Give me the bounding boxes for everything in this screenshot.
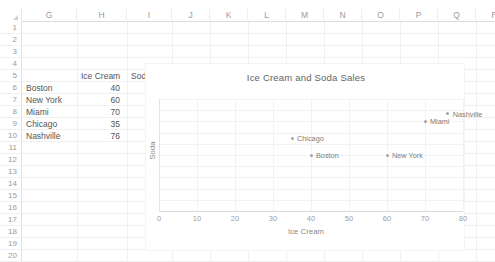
data-point-label: Miami [430, 117, 449, 126]
row-header-7[interactable]: 7 [0, 94, 21, 106]
column-header-J[interactable]: J [172, 9, 210, 22]
row-header-17[interactable]: 17 [0, 214, 21, 226]
cell-G8-city[interactable]: Miami [23, 106, 77, 118]
row-header-3[interactable]: 3 [0, 46, 21, 58]
data-point-label: Chicago [297, 134, 324, 143]
cell-G10-city[interactable]: Nashville [23, 130, 77, 142]
column-header-K[interactable]: K [210, 9, 248, 22]
chart-gridline-horizontal [159, 99, 463, 100]
cell-G9-city[interactable]: Chicago [23, 118, 77, 130]
chart-x-tick-20: 20 [222, 214, 248, 223]
data-point-marker[interactable] [291, 137, 294, 140]
column-header-G[interactable]: G [22, 9, 77, 22]
cell-G7-city[interactable]: New York [23, 94, 77, 106]
column-header-I[interactable]: I [127, 9, 172, 22]
chart-title: Ice Cream and Soda Sales [146, 72, 466, 83]
column-header-P[interactable]: P [400, 9, 438, 22]
chart-gridline-horizontal [159, 144, 463, 145]
column-header-N[interactable]: N [324, 9, 362, 22]
chart-y-axis-label: Soda [148, 131, 157, 171]
cell-H8-ice-cream[interactable]: 70 [77, 106, 127, 118]
chart-x-tick-40: 40 [298, 214, 324, 223]
chart-gridline-horizontal [159, 177, 463, 178]
row-header-13[interactable]: 13 [0, 166, 21, 178]
chart-x-tick-30: 30 [260, 214, 286, 223]
row-header-6[interactable]: 6 [0, 82, 21, 94]
grid-column-line [127, 22, 128, 262]
column-header-H[interactable]: H [77, 9, 127, 22]
chart-gridline-horizontal [159, 200, 463, 201]
row-header-20[interactable]: 20 [0, 250, 21, 262]
column-header-L[interactable]: L [248, 9, 286, 22]
row-header-5[interactable]: 5 [0, 70, 21, 82]
spreadsheet-app: GHIJKLMNOPQR 123456789101112131415161718… [0, 0, 495, 262]
grid-row-line [22, 250, 495, 262]
grid-column-line [476, 22, 477, 262]
row-header-11[interactable]: 11 [0, 142, 21, 154]
grid-row-line [22, 46, 495, 58]
chart-gridline-horizontal [159, 121, 463, 122]
chart-gridline-horizontal [159, 166, 463, 167]
chart-x-tick-50: 50 [336, 214, 362, 223]
row-header-12[interactable]: 12 [0, 154, 21, 166]
row-header-16[interactable]: 16 [0, 202, 21, 214]
chart-x-tick-0: 0 [146, 214, 172, 223]
chart-gridline-horizontal [159, 189, 463, 190]
column-header-Q[interactable]: Q [438, 9, 476, 22]
row-header-8[interactable]: 8 [0, 106, 21, 118]
row-header-14[interactable]: 14 [0, 178, 21, 190]
row-header-19[interactable]: 19 [0, 238, 21, 250]
grid-column-line [77, 22, 78, 262]
cell-H7-ice-cream[interactable]: 60 [77, 94, 127, 106]
select-all-triangle-icon [13, 15, 18, 20]
chart-gridline-horizontal [159, 110, 463, 111]
column-header-O[interactable]: O [362, 9, 400, 22]
data-point-label: Boston [316, 151, 339, 160]
cell-H6-ice-cream[interactable]: 40 [77, 82, 127, 94]
cell-H9-ice-cream[interactable]: 35 [77, 118, 127, 130]
grid-row-line [22, 34, 495, 46]
chart-x-axis-label: Ice Cream [146, 227, 466, 236]
row-header-18[interactable]: 18 [0, 226, 21, 238]
row-header-10[interactable]: 10 [0, 130, 21, 142]
chart-x-tick-70: 70 [412, 214, 438, 223]
data-point-label: New York [392, 151, 423, 160]
row-header-4[interactable]: 4 [0, 58, 21, 70]
row-header-9[interactable]: 9 [0, 118, 21, 130]
cell-H5-ice-cream-header[interactable]: Ice Cream [79, 70, 127, 82]
row-header-15[interactable]: 15 [0, 190, 21, 202]
data-point-marker[interactable] [386, 154, 389, 157]
row-header-2[interactable]: 2 [0, 34, 21, 46]
data-point-marker[interactable] [310, 154, 313, 157]
column-header-R[interactable]: R [476, 9, 495, 22]
column-header-M[interactable]: M [286, 9, 324, 22]
chart-x-tick-80: 80 [450, 214, 476, 223]
scatter-chart[interactable]: Ice Cream and Soda Sales 010203040506070… [145, 63, 465, 251]
data-point-label: Nashville [453, 110, 483, 119]
chart-x-axis-line [159, 211, 463, 212]
cell-G6-city[interactable]: Boston [23, 82, 77, 94]
cell-H10-ice-cream[interactable]: 76 [77, 130, 127, 142]
column-header-row: GHIJKLMNOPQR [22, 9, 495, 22]
select-all-corner[interactable] [0, 9, 22, 22]
row-header-column: 1234567891011121314151617181920 [0, 22, 22, 262]
data-point-marker[interactable] [424, 120, 427, 123]
grid-row-line [22, 22, 495, 34]
chart-x-tick-60: 60 [374, 214, 400, 223]
row-header-1[interactable]: 1 [0, 22, 21, 34]
chart-x-tick-10: 10 [184, 214, 210, 223]
chart-y-axis-line [159, 99, 160, 211]
